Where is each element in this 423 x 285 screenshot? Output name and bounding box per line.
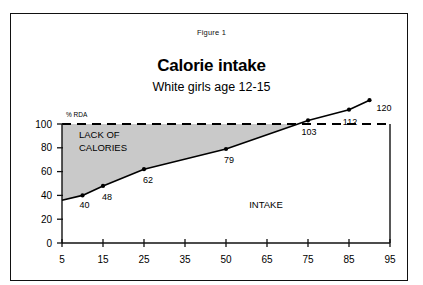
y-tick-label: 0: [46, 238, 52, 249]
data-point-value-label: 120: [377, 103, 392, 113]
y-tick-label: 40: [41, 190, 53, 201]
data-point-value-label: 103: [301, 127, 316, 137]
x-tick-label: 5: [59, 254, 65, 265]
x-tick-label: 65: [261, 254, 273, 265]
data-point-value-label: 79: [224, 155, 234, 165]
y-tick-label: 80: [41, 142, 53, 153]
x-tick-label: 35: [179, 254, 191, 265]
y-tick-label: 20: [41, 214, 53, 225]
data-point-value-label: 112: [343, 117, 357, 127]
x-tick-label: 15: [97, 254, 109, 265]
x-axis-tick-labels: 51525355065758595: [59, 254, 396, 265]
data-point-marker: [306, 118, 310, 122]
chart-plot-area: 020406080100 51525355065758595 404862791…: [0, 0, 423, 285]
x-tick-label: 50: [220, 254, 232, 265]
y-tick-label: 60: [41, 166, 53, 177]
x-tick-label: 85: [343, 254, 355, 265]
x-tick-label: 75: [302, 254, 314, 265]
data-point-marker: [80, 193, 84, 197]
data-point-value-label: 48: [102, 192, 112, 202]
x-tick-label: 25: [138, 254, 150, 265]
data-point-value-label: 40: [79, 200, 89, 210]
y-axis-tick-labels: 020406080100: [35, 119, 52, 249]
data-point-marker: [347, 108, 351, 112]
x-tick-label: 95: [384, 254, 396, 265]
intake-label: INTAKE: [249, 199, 283, 210]
data-point-value-label: 62: [143, 175, 153, 185]
data-point-marker: [224, 147, 228, 151]
chart-svg: 020406080100 51525355065758595 404862791…: [0, 0, 423, 285]
lack-of-calories-label-line1: LACK OF: [79, 129, 120, 140]
y-axis-unit-label: % RDA: [66, 111, 88, 118]
data-point-marker: [367, 98, 371, 102]
y-tick-label: 100: [35, 119, 52, 130]
data-point-marker: [101, 184, 105, 188]
data-point-marker: [142, 167, 146, 171]
lack-of-calories-label-line2: CALORIES: [79, 142, 127, 153]
